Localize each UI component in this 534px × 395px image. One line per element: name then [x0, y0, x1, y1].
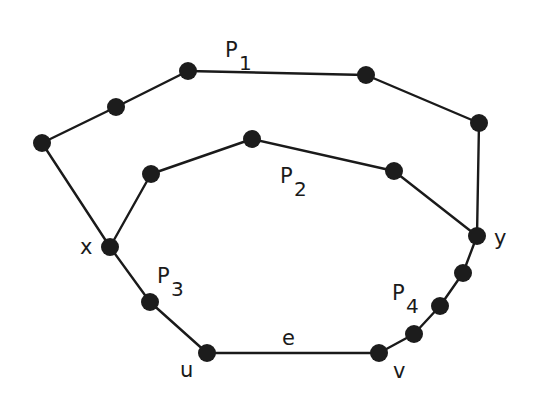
path-subscript: 2	[294, 177, 307, 201]
edge-p1a-p1b	[116, 71, 188, 107]
path-label-p3: P3	[157, 264, 184, 301]
path-letter: P	[392, 281, 405, 305]
vertex-p1c	[357, 66, 375, 84]
vertex-label-x: x	[80, 235, 92, 259]
path-letter: P	[225, 38, 238, 62]
path-subscript: 1	[239, 51, 252, 75]
edge-p2a-p2b	[151, 139, 252, 174]
vertex-x	[101, 238, 119, 256]
vertex-label-v: v	[393, 359, 405, 383]
edge-p2c-y	[394, 171, 477, 236]
vertex-p4c	[405, 325, 423, 343]
vertex-p2b	[243, 130, 261, 148]
vertex-p2c	[385, 162, 403, 180]
vertex-p4b	[431, 297, 449, 315]
path-label-p4: P4	[392, 281, 419, 318]
edge-p3a-u	[150, 302, 207, 353]
vertex-v	[370, 344, 388, 362]
edge-b-y	[477, 123, 479, 236]
vertex-u	[198, 344, 216, 362]
vertex-p3a	[141, 293, 159, 311]
vertex-label-y: y	[494, 226, 506, 250]
edge-x-a	[42, 143, 110, 247]
path-label-p2: P2	[280, 164, 307, 201]
vertex-p1a	[107, 98, 125, 116]
edge-x-p3a	[110, 247, 150, 302]
edge-x-p2a	[110, 174, 151, 247]
path-letter: P	[280, 164, 293, 188]
labels-layer: x y u v e P1 P2 P3 P4	[80, 38, 506, 383]
vertex-p1b	[179, 62, 197, 80]
path-subscript: 4	[406, 294, 419, 318]
edge-a-p1a	[42, 107, 116, 143]
path-subscript: 3	[171, 277, 184, 301]
vertex-y	[468, 227, 486, 245]
nodes-layer	[33, 62, 488, 362]
edge-p1c-b	[366, 75, 479, 123]
vertex-p4a	[454, 264, 472, 282]
vertex-b	[470, 114, 488, 132]
graph-diagram: x y u v e P1 P2 P3 P4	[0, 0, 534, 395]
edge-label-e: e	[282, 326, 295, 350]
path-letter: P	[157, 264, 170, 288]
vertex-p2a	[142, 165, 160, 183]
vertex-label-u: u	[180, 358, 193, 382]
edge-p2b-p2c	[252, 139, 394, 171]
edge-p1b-p1c	[188, 71, 366, 75]
vertex-a	[33, 134, 51, 152]
path-label-p1: P1	[225, 38, 252, 75]
